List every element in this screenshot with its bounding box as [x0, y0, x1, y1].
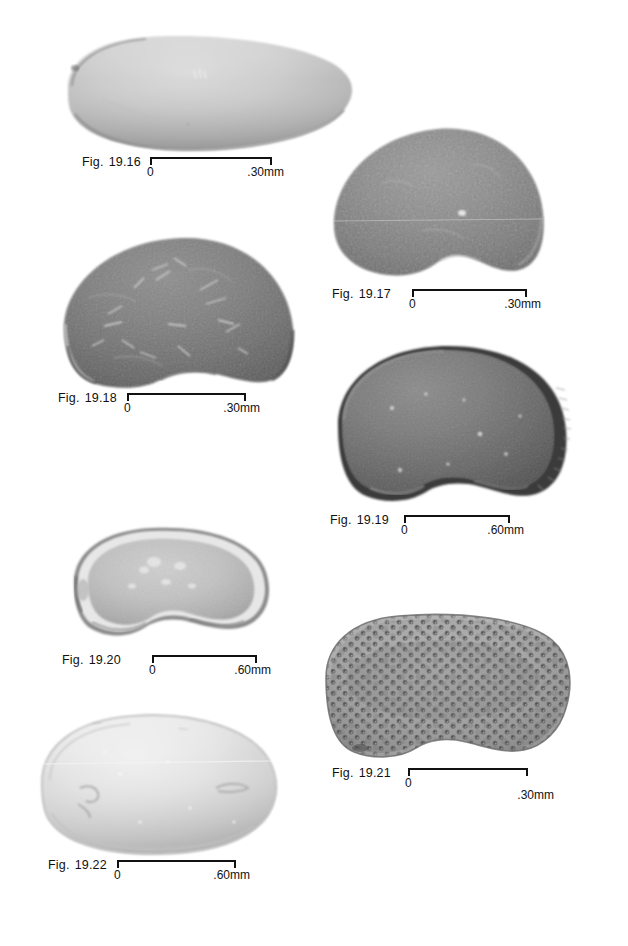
scale-bar-rule: [150, 157, 272, 159]
specimen-image-19-16: [42, 26, 362, 154]
plate-canvas: Fig.19.16 0 .30mm: [0, 0, 628, 946]
figure-prefix: Fig.: [48, 858, 70, 872]
caption-19-22: Fig.19.22 0 .60mm: [48, 858, 268, 888]
figure-number: 19.16: [109, 155, 141, 169]
specimen-image-19-19: [330, 338, 580, 510]
specimen-image-19-21: [312, 608, 580, 764]
figure-label-19-21: Fig.19.21: [332, 766, 391, 780]
scale-bar-rule: [408, 768, 528, 770]
figure-label-19-19: Fig.19.19: [330, 513, 389, 527]
scale-tick-end: [525, 289, 527, 297]
caption-19-20: Fig.19.20 0 .60mm: [62, 653, 277, 683]
scale-max-label: .30mm: [517, 788, 554, 802]
figure-prefix: Fig.: [332, 766, 354, 780]
scale-zero-label: 0: [149, 663, 156, 677]
figure-number: 19.22: [75, 858, 107, 872]
figure-label-19-20: Fig.19.20: [62, 653, 121, 667]
scale-max-label: .60mm: [234, 663, 271, 677]
caption-19-17: Fig.19.17 0 .30mm: [332, 287, 542, 317]
scale-zero-label: 0: [124, 401, 131, 415]
scale-zero-label: 0: [405, 776, 412, 790]
caption-19-18: Fig.19.18 0 .30mm: [58, 391, 268, 421]
scale-bar-rule: [127, 393, 246, 395]
scale-tick-start: [408, 768, 410, 776]
scale-tick-end: [270, 157, 272, 165]
scale-bar-rule: [152, 655, 257, 657]
caption-19-16: Fig.19.16 0 .30mm: [82, 155, 282, 185]
figure-number: 19.18: [85, 391, 117, 405]
figure-number: 19.17: [359, 287, 391, 301]
scale-max-label: .30mm: [247, 165, 284, 179]
scale-tick-end: [255, 655, 257, 663]
scale-zero-label: 0: [401, 523, 408, 537]
scale-zero-label: 0: [114, 868, 121, 882]
specimen-image-19-22: [28, 704, 296, 856]
figure-number: 19.19: [357, 513, 389, 527]
scale-tick-end: [508, 515, 510, 523]
caption-19-21: Fig.19.21 0 .30mm: [332, 766, 562, 806]
scale-bar-rule: [404, 515, 510, 517]
figure-prefix: Fig.: [62, 653, 84, 667]
figure-prefix: Fig.: [58, 391, 80, 405]
scale-tick-start: [404, 515, 406, 523]
scale-tick-start: [117, 860, 119, 868]
scale-tick-end: [526, 768, 528, 776]
specimen-image-19-20: [60, 524, 288, 648]
specimen-image-19-17: [322, 113, 552, 285]
figure-label-19-16: Fig.19.16: [82, 155, 141, 169]
scale-max-label: .30mm: [223, 401, 260, 415]
figure-number: 19.20: [89, 653, 121, 667]
scale-tick-end: [244, 393, 246, 401]
scale-tick-start: [150, 157, 152, 165]
figure-prefix: Fig.: [330, 513, 352, 527]
scale-tick-start: [152, 655, 154, 663]
specimen-image-19-18: [48, 228, 300, 388]
figure-label-19-18: Fig.19.18: [58, 391, 117, 405]
figure-number: 19.21: [359, 766, 391, 780]
figure-prefix: Fig.: [332, 287, 354, 301]
figure-label-19-17: Fig.19.17: [332, 287, 391, 301]
figure-label-19-22: Fig.19.22: [48, 858, 107, 872]
scale-bar-rule: [412, 289, 527, 291]
scale-tick-start: [127, 393, 129, 401]
scale-max-label: .30mm: [504, 297, 541, 311]
scale-max-label: .60mm: [213, 868, 250, 882]
figure-prefix: Fig.: [82, 155, 104, 169]
scale-tick-end: [234, 860, 236, 868]
scale-tick-start: [412, 289, 414, 297]
scale-zero-label: 0: [409, 297, 416, 311]
caption-19-19: Fig.19.19 0 .60mm: [330, 513, 550, 543]
scale-bar-rule: [117, 860, 236, 862]
scale-max-label: .60mm: [487, 523, 524, 537]
scale-zero-label: 0: [147, 165, 154, 179]
